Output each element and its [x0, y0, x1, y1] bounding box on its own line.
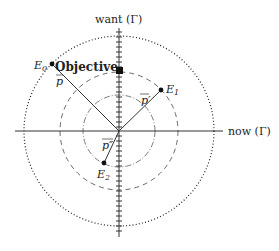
want-now-diagram: want (Γ) now (Γ) E0 Objective E1 E2 p p′… — [0, 0, 279, 251]
e0-label: E0 — [33, 59, 47, 73]
vector-p-prime-label: p′ — [141, 94, 151, 107]
vector-p-double-prime-label: p″ — [102, 139, 114, 152]
now-axis-label: now (Γ) — [228, 125, 271, 138]
point-e2 — [102, 161, 107, 166]
e2-label: E2 — [96, 168, 110, 182]
point-e1 — [159, 88, 164, 93]
point-e0 — [50, 62, 55, 67]
want-axis-label: want (Γ) — [95, 13, 142, 26]
vector-p-label: p — [56, 75, 63, 88]
vector-p-prime — [119, 90, 161, 131]
e1-label: E1 — [165, 83, 179, 97]
objective-label: Objective — [55, 60, 118, 74]
